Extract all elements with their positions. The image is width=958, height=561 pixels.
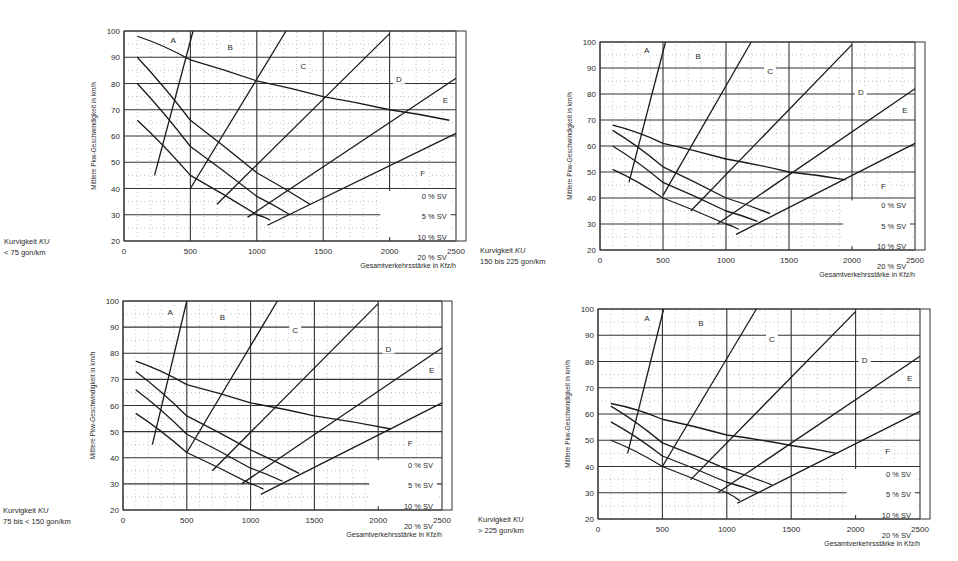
y-tick-label: 70	[111, 106, 120, 115]
y-tick-label: 20	[587, 246, 596, 255]
x-tick-label: 500	[184, 247, 198, 256]
x-tick-label: 1500	[314, 247, 332, 256]
los-label-a: A	[644, 46, 650, 55]
y-tick-label: 70	[110, 375, 119, 384]
y-tick-label: 100	[583, 38, 597, 47]
sv-curve-20-percent	[613, 169, 739, 229]
y-tick-label: 100	[107, 27, 121, 36]
x-tick-label: 500	[656, 525, 670, 534]
sv-legend-item: 0 % SV	[408, 461, 433, 470]
y-tick-label: 90	[587, 64, 596, 73]
chart-panel-4: 203040506070809010005001000150020002500M…	[478, 305, 930, 547]
sv-legend-item: 20 % SV	[404, 522, 433, 531]
x-tick-label: 0	[596, 525, 601, 534]
sv-legend-item: 20 % SV	[877, 262, 906, 271]
x-tick-label: 1000	[242, 516, 260, 525]
sv-legend-item: 0 % SV	[881, 201, 906, 210]
x-tick-label: 1000	[717, 256, 735, 265]
x-tick-label: 2000	[369, 516, 387, 525]
los-label-e: E	[902, 106, 907, 115]
y-tick-label: 30	[111, 211, 120, 220]
los-boundary-line	[187, 301, 278, 453]
y-tick-label: 60	[585, 410, 594, 419]
y-axis-label: Mittlere Pkw-Geschwindigkeit in km/h	[89, 351, 97, 459]
x-tick-label: 2000	[847, 525, 865, 534]
los-label-b: B	[698, 319, 703, 328]
x-tick-label: 2500	[433, 516, 451, 525]
y-tick-label: 80	[111, 80, 120, 89]
los-label-a: A	[168, 308, 174, 317]
y-tick-label: 40	[585, 463, 594, 472]
los-label-c: C	[292, 326, 298, 335]
x-axis-label: Gesamtverkehrsstärke in Kfz/h	[819, 271, 915, 278]
los-label-d: D	[386, 345, 392, 354]
x-tick-label: 2000	[381, 247, 399, 256]
chart-panel-3: 203040506070809010005001000150020002500M…	[3, 297, 452, 538]
y-tick-label: 90	[111, 53, 120, 62]
sv-legend-item: 10 % SV	[882, 511, 911, 520]
y-tick-label: 80	[110, 349, 119, 358]
sv-legend-item: 20 % SV	[418, 253, 447, 262]
y-tick-label: 50	[585, 436, 594, 445]
y-tick-label: 20	[110, 506, 119, 515]
curvature-label: Kurvigkeit KU	[478, 515, 524, 524]
los-label-e: E	[907, 374, 912, 383]
x-tick-label: 1500	[782, 525, 800, 534]
sv-legend-item: 0 % SV	[886, 470, 911, 479]
los-label-f: F	[881, 182, 886, 191]
los-label-b: B	[220, 313, 225, 322]
x-tick-label: 1000	[248, 247, 266, 256]
curvature-label: Kurvigkeit KU	[480, 246, 526, 255]
y-tick-label: 30	[587, 220, 596, 229]
y-tick-label: 50	[110, 428, 119, 437]
y-tick-label: 40	[587, 194, 596, 203]
y-tick-label: 60	[110, 402, 119, 411]
y-tick-label: 40	[110, 454, 119, 463]
sv-legend-item: 5 % SV	[881, 222, 906, 231]
sv-legend-item: 10 % SV	[404, 502, 433, 511]
y-tick-label: 80	[585, 358, 594, 367]
x-axis-label: Gesamtverkehrsstärke in Kfz/h	[360, 262, 456, 269]
los-label-f: F	[408, 439, 413, 448]
x-axis-label: Gesamtverkehrsstärke in Kfz/h	[824, 540, 920, 547]
y-tick-label: 50	[587, 168, 596, 177]
sv-legend-item: 5 % SV	[886, 490, 911, 499]
x-tick-label: 2500	[447, 247, 465, 256]
sv-legend-item: 5 % SV	[408, 481, 433, 490]
x-tick-label: 0	[598, 256, 603, 265]
y-tick-label: 100	[106, 297, 120, 306]
sv-legend-item: 10 % SV	[418, 233, 447, 242]
los-label-d: D	[396, 75, 402, 84]
x-tick-label: 1500	[306, 516, 324, 525]
y-tick-label: 80	[587, 90, 596, 99]
sv-curve-5-percent	[137, 57, 310, 204]
los-label-b: B	[228, 43, 233, 52]
curvature-range: 150 bis 225 gon/km	[480, 257, 545, 266]
curvature-range: 75 bis < 150 gon/km	[3, 517, 71, 526]
los-label-a: A	[644, 314, 650, 323]
x-tick-label: 2500	[906, 256, 924, 265]
curvature-range: > 225 gon/km	[478, 526, 524, 535]
y-tick-label: 20	[585, 515, 594, 524]
x-tick-label: 500	[180, 516, 194, 525]
sv-curve-10-percent	[136, 390, 283, 481]
y-tick-label: 90	[110, 323, 119, 332]
y-tick-label: 60	[587, 142, 596, 151]
curvature-label: Kurvigkeit KU	[3, 506, 49, 515]
los-label-c: C	[767, 67, 773, 76]
x-tick-label: 0	[121, 516, 126, 525]
los-label-e: E	[443, 96, 448, 105]
y-tick-label: 100	[581, 305, 595, 314]
y-tick-label: 60	[111, 132, 120, 141]
los-label-f: F	[885, 447, 890, 456]
los-label-e: E	[429, 366, 434, 375]
x-tick-label: 1500	[780, 256, 798, 265]
sv-legend-item: 0 % SV	[422, 192, 447, 201]
document-figure: 203040506070809010005001000150020002500M…	[0, 0, 958, 561]
y-tick-label: 20	[111, 237, 120, 246]
sv-legend-item: 10 % SV	[877, 242, 906, 251]
los-label-d: D	[862, 356, 868, 365]
y-tick-label: 40	[111, 185, 120, 194]
y-axis-label: Mittlere Pkw-Geschwindigkeit in km/h	[90, 82, 98, 190]
y-tick-label: 70	[587, 116, 596, 125]
